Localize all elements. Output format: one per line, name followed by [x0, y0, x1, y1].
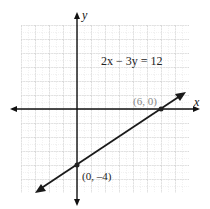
point-x-intercept	[159, 107, 164, 112]
y-axis-up-arrow-icon	[74, 12, 80, 19]
graph: y x 2x − 3y = 12 (6, 0) (0, –4)	[0, 0, 210, 209]
equation-label: 2x − 3y = 12	[101, 54, 163, 68]
point-y-intercept	[75, 163, 80, 168]
y-axis-label: y	[81, 8, 88, 22]
x-intercept-label: (6, 0)	[133, 95, 157, 108]
y-axis-down-arrow-icon	[74, 199, 80, 206]
x-axis-left-arrow-icon	[10, 106, 17, 112]
x-axis-label: x	[193, 95, 200, 109]
y-intercept-label: (0, –4)	[82, 170, 112, 183]
